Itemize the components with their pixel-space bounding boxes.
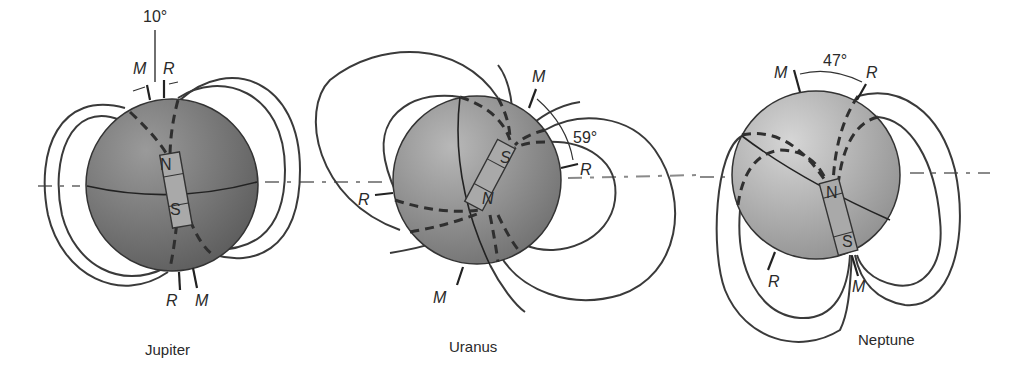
neptune-magnetic-axis-label: M bbox=[774, 64, 788, 81]
uranus-magnetic-axis-label: M bbox=[532, 68, 546, 85]
uranus-pole-south: S bbox=[500, 149, 511, 166]
uranus-rotation-axis-label-left: R bbox=[358, 191, 370, 208]
jupiter-bottom-label-m: M bbox=[195, 292, 209, 309]
jupiter-rotation-axis-tick-bottom bbox=[179, 272, 180, 290]
uranus-panel: S N M 59° R R M Uranus bbox=[316, 52, 675, 355]
uranus-caption: Uranus bbox=[449, 338, 497, 355]
uranus-rotation-axis-tick-left bbox=[375, 193, 393, 195]
uranus-rotation-axis-label: R bbox=[580, 161, 592, 178]
neptune-panel: N S M 47° R R M Neptune bbox=[717, 52, 960, 348]
neptune-rotation-axis-label-bottom: R bbox=[768, 273, 780, 290]
jupiter-bottom-label-r: R bbox=[166, 292, 178, 309]
uranus-magnetic-axis-tick-bottom bbox=[457, 267, 463, 285]
jupiter-panel: N S 10° M R R M Jupiter bbox=[45, 8, 300, 358]
jupiter-pole-south: S bbox=[170, 201, 181, 218]
jupiter-angle-arrows bbox=[133, 82, 178, 91]
neptune-angle-arc bbox=[800, 71, 862, 82]
jupiter-magnetic-axis-label: M bbox=[133, 60, 147, 77]
neptune-pole-south: S bbox=[842, 233, 853, 250]
uranus-tilt-label: 59° bbox=[573, 129, 597, 146]
neptune-magnetic-axis-tick bbox=[794, 70, 800, 92]
neptune-rotation-axis-label: R bbox=[866, 64, 878, 81]
jupiter-pole-north: N bbox=[160, 156, 172, 173]
jupiter-magnetic-axis-tick-bottom bbox=[193, 268, 197, 288]
uranus-rotation-axis-tick bbox=[561, 164, 578, 168]
neptune-pole-north: N bbox=[826, 184, 838, 201]
neptune-rotation-axis-tick bbox=[857, 84, 866, 100]
uranus-pole-north: N bbox=[482, 190, 494, 207]
neptune-magnetic-axis-label-bottom: M bbox=[852, 278, 866, 295]
jupiter-magnetic-axis-tick bbox=[147, 85, 150, 100]
neptune-sphere bbox=[732, 91, 900, 259]
jupiter-rotation-axis-label: R bbox=[163, 60, 175, 77]
neptune-caption: Neptune bbox=[858, 331, 915, 348]
jupiter-tilt-label: 10° bbox=[143, 8, 167, 25]
jupiter-caption: Jupiter bbox=[145, 341, 190, 358]
uranus-magnetic-axis-tick bbox=[529, 89, 536, 108]
magnetic-fields-diagram: N S 10° M R R M Jupiter bbox=[0, 0, 1019, 380]
neptune-rotation-axis-tick-bottom bbox=[768, 252, 775, 270]
neptune-tilt-label: 47° bbox=[823, 52, 847, 69]
uranus-magnetic-axis-label-bottom: M bbox=[433, 289, 447, 306]
